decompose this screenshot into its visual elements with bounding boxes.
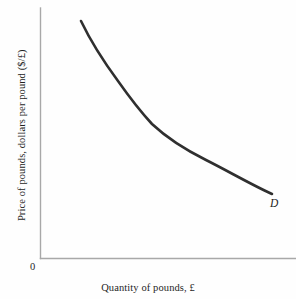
demand-curve-D: [81, 21, 272, 194]
x-axis-label: Quantity of pounds, £: [0, 283, 296, 294]
y-axis-label: Price of pounds, dollars per pound ($/£): [17, 30, 28, 240]
axes-group: [41, 8, 297, 259]
demand-curve-figure: Price of pounds, dollars per pound ($/£)…: [0, 0, 296, 299]
demand-curve-label: D: [270, 198, 278, 210]
chart-canvas: [0, 0, 296, 299]
origin-label: 0: [30, 262, 35, 273]
demand-curve-group: [81, 21, 272, 194]
